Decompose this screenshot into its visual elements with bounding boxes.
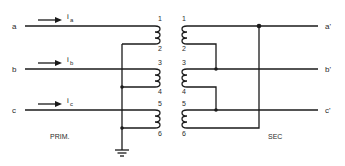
secondary-link-2-to-3 xyxy=(187,44,216,69)
secondary-terminal-2: 2 xyxy=(182,45,186,52)
primary-label: PRIM. xyxy=(50,133,70,140)
terminal-b-prime-label: b' xyxy=(325,65,331,74)
junction-dot xyxy=(257,24,262,29)
terminal-a-prime-label: a' xyxy=(325,22,331,31)
current-ia-subscript: a xyxy=(70,17,74,23)
secondary-coil-1-2-icon xyxy=(182,26,187,44)
primary-terminal-5: 5 xyxy=(158,100,162,107)
terminal-c-label: c xyxy=(12,106,16,115)
current-ia-label: i xyxy=(67,12,69,21)
current-arrow-b-icon xyxy=(38,60,62,66)
current-ic-subscript: c xyxy=(70,101,73,107)
junction-dot xyxy=(120,85,124,89)
terminal-c-prime-label: c' xyxy=(325,106,331,115)
secondary-coil-3-4-icon xyxy=(182,69,187,87)
transformer-schematic: a b c i a i b i c 1 2 3 4 5 6 PRIM. xyxy=(0,0,345,166)
primary-coil-5-6-icon xyxy=(155,110,160,128)
secondary-terminal-4: 4 xyxy=(182,88,186,95)
secondary-link-6-to-1 xyxy=(187,26,259,128)
terminal-a-label: a xyxy=(12,22,17,31)
junction-dot xyxy=(120,126,124,130)
ground-icon xyxy=(115,150,129,156)
primary-terminal-1: 1 xyxy=(158,15,162,22)
primary-terminal-6: 6 xyxy=(158,130,162,137)
secondary-terminal-6: 6 xyxy=(182,130,186,137)
secondary-terminal-3: 3 xyxy=(182,59,186,66)
junction-dot xyxy=(214,108,218,112)
terminal-b-label: b xyxy=(12,65,17,74)
current-ib-subscript: b xyxy=(70,60,74,66)
primary-coil-1-2-icon xyxy=(155,26,160,44)
primary-terminal-4: 4 xyxy=(158,88,162,95)
primary-coil-3-4-icon xyxy=(155,69,160,87)
current-arrow-c-icon xyxy=(38,101,62,107)
secondary-terminal-1: 1 xyxy=(182,15,186,22)
current-ic-label: i xyxy=(67,96,69,105)
secondary-terminal-5: 5 xyxy=(182,100,186,107)
primary-terminal-2: 2 xyxy=(158,45,162,52)
primary-terminal-3: 3 xyxy=(158,59,162,66)
secondary-label: SEC xyxy=(268,133,282,140)
junction-dot xyxy=(214,67,218,71)
secondary-link-4-to-5 xyxy=(187,87,216,110)
current-ib-label: i xyxy=(67,55,69,64)
current-arrow-a-icon xyxy=(38,17,62,23)
secondary-coil-5-6-icon xyxy=(182,110,187,128)
